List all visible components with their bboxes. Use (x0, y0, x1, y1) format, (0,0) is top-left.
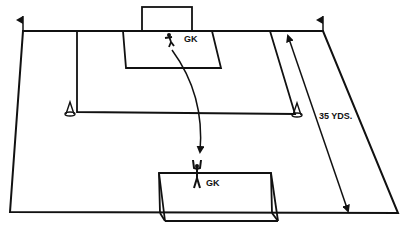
gk-movement-arrow (172, 50, 201, 152)
field-svg: 35 YDS. GK GK (0, 0, 403, 232)
corner-flag-left (16, 16, 23, 31)
drill-diagram: 35 YDS. GK GK (0, 0, 403, 232)
corner-flag-right (316, 16, 323, 31)
gk-label-top: GK (184, 34, 198, 44)
top-goal (142, 7, 192, 31)
goalkeeper-bottom (193, 160, 201, 188)
distance-label: 35 YDS. (319, 111, 352, 121)
cone-left (65, 102, 75, 116)
gk-label-bottom: GK (206, 178, 220, 188)
goalkeeper-top (165, 33, 174, 47)
distance-arrow (288, 36, 348, 211)
penalty-box (123, 31, 221, 68)
